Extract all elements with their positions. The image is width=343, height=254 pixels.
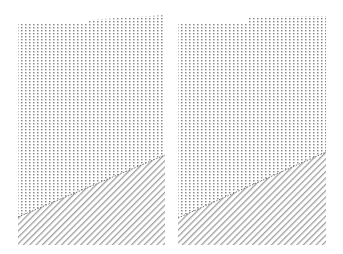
left-panel [18, 15, 165, 245]
texture-canvas [0, 0, 343, 254]
panels-group [18, 15, 326, 245]
right-panel [178, 16, 326, 245]
